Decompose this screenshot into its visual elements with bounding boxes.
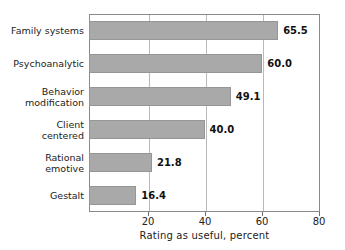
- category-label-line: Gestalt: [50, 190, 84, 201]
- bar-value-label: 49.1: [236, 89, 261, 104]
- category-label-family-systems: Family systems: [0, 14, 84, 47]
- x-tick-label-80: 80: [313, 215, 326, 228]
- x-tick-label-40: 40: [199, 215, 212, 228]
- bar-value-label: 65.5: [283, 23, 308, 38]
- category-label-line: Psychoanalytic: [13, 58, 84, 69]
- bar-value-label: 60.0: [267, 56, 292, 71]
- category-label-rational-emotive: Rational emotive: [0, 146, 84, 179]
- bar-behavior-modification[interactable]: [89, 87, 231, 106]
- bar-row: 60.0: [89, 47, 320, 80]
- x-axis-title: Rating as useful, percent: [89, 229, 320, 242]
- bar-gestalt[interactable]: [89, 186, 136, 205]
- category-label-line: Client: [42, 119, 84, 130]
- bar-chart: Family systems Psychoanalytic Behavior m…: [0, 0, 345, 250]
- bar-row: 16.4: [89, 179, 320, 212]
- category-label-behavior-modification: Behavior modification: [0, 80, 84, 113]
- bar-rational-emotive[interactable]: [89, 153, 152, 172]
- category-label-line: Family systems: [11, 25, 84, 36]
- bar-value-label: 40.0: [210, 122, 235, 137]
- bar-client-centered[interactable]: [89, 120, 205, 139]
- category-label-client-centered: Client centered: [0, 113, 84, 146]
- category-label-gestalt: Gestalt: [0, 179, 84, 212]
- category-label-line: modification: [25, 97, 84, 108]
- category-label-line: Rational: [45, 152, 84, 163]
- bars-layer: 65.5 60.0 49.1 40.0 21.8 16.4: [89, 14, 320, 212]
- bar-row: 21.8: [89, 146, 320, 179]
- category-label-line: Behavior: [25, 86, 84, 97]
- x-axis-tick-labels: 20 40 60 80: [0, 215, 345, 229]
- bar-value-label: 16.4: [141, 188, 166, 203]
- category-label-line: centered: [42, 130, 84, 141]
- x-tick-label-60: 60: [256, 215, 269, 228]
- category-label-psychoanalytic: Psychoanalytic: [0, 47, 84, 80]
- bar-value-label: 21.8: [157, 155, 182, 170]
- category-axis-labels: Family systems Psychoanalytic Behavior m…: [0, 14, 84, 212]
- x-tick-label-20: 20: [142, 215, 155, 228]
- bar-row: 65.5: [89, 14, 320, 47]
- bar-family-systems[interactable]: [89, 21, 278, 40]
- bar-row: 49.1: [89, 80, 320, 113]
- bar-row: 40.0: [89, 113, 320, 146]
- bar-psychoanalytic[interactable]: [89, 54, 262, 73]
- category-label-line: emotive: [45, 163, 84, 174]
